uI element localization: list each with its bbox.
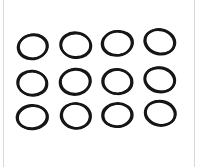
elastic-ring-12 — [144, 99, 178, 128]
elastic-ring-12 — [143, 99, 177, 128]
elastic-ring-2 — [60, 32, 92, 60]
rings-image — [0, 0, 199, 167]
elastic-ring-3 — [102, 29, 134, 56]
elastic-ring-11 — [103, 103, 134, 128]
product-photo — [0, 0, 199, 167]
elastic-ring-7 — [103, 69, 134, 95]
